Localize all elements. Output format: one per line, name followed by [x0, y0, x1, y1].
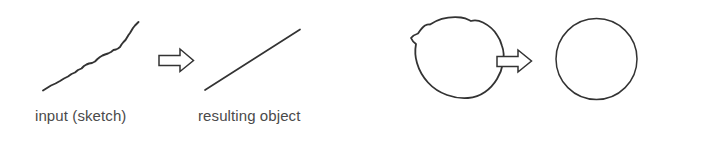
resulting-circle-drawing [355, 0, 709, 105]
panel-line-example: input (sketch) resulting object [0, 0, 355, 142]
resulting-line-drawing [0, 0, 355, 105]
panel-circle-example: input (sketch) resulting object [355, 0, 709, 142]
caption-line-output: resulting object [198, 107, 301, 125]
sketch-beautification-figure: input (sketch) resulting object input (s… [0, 0, 709, 142]
caption-line-input: input (sketch) [35, 107, 126, 125]
